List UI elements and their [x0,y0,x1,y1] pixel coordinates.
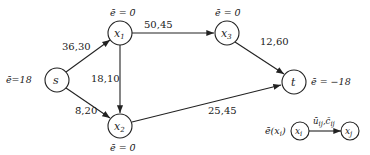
edge-label-x1-x2: 18,10 [91,73,120,84]
node-x2-excess: ē = 0̄ [110,142,136,153]
edge-x2-t [132,85,281,122]
legend-node-to: xj [341,122,359,140]
edge-label-s-x2: 8̄,20 [75,105,97,116]
node-x1: x1 [108,21,132,45]
node-x3-excess: ē = 0̄ [215,7,241,18]
legend: ē(xi) xi ūij,c̄ij xj [265,116,359,140]
legend-node-from: xi [291,122,309,140]
node-t-excess: ē = −18 [311,76,351,87]
edge-label-s-x1: 36,30 [62,41,91,52]
node-x1-excess: ē = 0̄ [110,7,136,18]
node-x3: x3 [215,21,239,45]
node-x2: x2 [108,114,132,138]
legend-edge-label: ūij,c̄ij [313,116,336,128]
node-t-label: t [291,76,296,89]
edge-label-x3-t: 12,60 [260,36,289,47]
flow-network-diagram: 36,30 8̄,20 18,10 50,45 12,60 25,45 s ē=… [0,0,370,155]
node-t: t [282,70,306,94]
node-s-label: s [53,74,59,87]
edge-label-x2-t: 25,45 [208,105,237,116]
legend-excess-label: ē(xi) [265,125,286,138]
node-s: s [45,68,69,92]
edge-label-x1-x3: 50,45 [144,19,173,30]
node-s-excess: ē=18 [6,74,32,85]
